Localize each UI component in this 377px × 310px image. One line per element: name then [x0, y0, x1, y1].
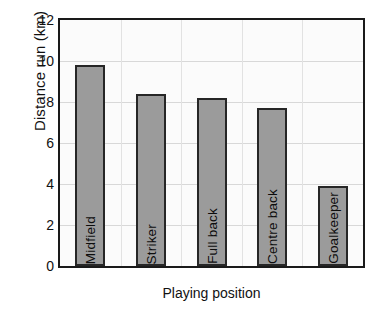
gridline-vertical: [121, 20, 122, 266]
y-axis-tick-label: 10: [20, 53, 54, 69]
y-axis-ticks: 024681012: [16, 18, 54, 268]
bar-category-label: Midfield: [83, 216, 98, 264]
y-axis-tick-label: 2: [20, 217, 54, 233]
bar-category-label: Centre back: [265, 189, 280, 264]
bar-category-label: Goalkeeper: [326, 192, 341, 264]
bar-category-label: Striker: [144, 224, 159, 264]
y-axis-tick-label: 0: [20, 258, 54, 274]
bar-full-back[interactable]: Full back: [197, 98, 227, 266]
plot-area: MidfieldStrikerFull backCentre backGoalk…: [58, 18, 365, 268]
y-axis-tick-label: 4: [20, 176, 54, 192]
gridline-vertical: [242, 20, 243, 266]
y-axis-tick-label: 12: [20, 12, 54, 28]
gridline-vertical: [302, 20, 303, 266]
bar-chart: Distance run (km) 024681012 MidfieldStri…: [0, 0, 377, 310]
bar-striker[interactable]: Striker: [136, 94, 166, 266]
bar-centre-back[interactable]: Centre back: [257, 108, 287, 266]
gridline-vertical: [181, 20, 182, 266]
y-axis-tick-label: 6: [20, 135, 54, 151]
bar-midfield[interactable]: Midfield: [75, 65, 105, 266]
gridline-horizontal: [60, 61, 363, 62]
bar-goalkeeper[interactable]: Goalkeeper: [318, 186, 348, 266]
bar-category-label: Full back: [205, 208, 220, 264]
x-axis-title: Playing position: [58, 285, 365, 301]
plot-inner: MidfieldStrikerFull backCentre backGoalk…: [60, 20, 363, 266]
y-axis-tick-label: 8: [20, 94, 54, 110]
